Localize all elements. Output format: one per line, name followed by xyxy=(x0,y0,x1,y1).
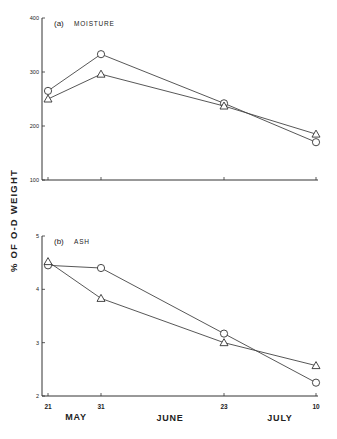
figure: % OF O-D WEIGHT 100200300400(a)MOISTURE … xyxy=(0,0,337,439)
chart-canvas: % OF O-D WEIGHT 100200300400(a)MOISTURE … xyxy=(0,0,337,439)
series-line-circle xyxy=(48,54,316,142)
triangle-marker-icon xyxy=(220,339,228,346)
y-tick-label: 200 xyxy=(30,123,39,129)
circle-marker-icon xyxy=(312,139,319,146)
series-line-circle xyxy=(48,265,316,382)
month-label-june: JUNE xyxy=(156,413,183,423)
circle-marker-icon xyxy=(220,330,227,337)
x-tick-label: 10 xyxy=(312,403,320,410)
x-tick-label: 31 xyxy=(97,403,105,410)
circle-marker-icon xyxy=(97,51,104,58)
x-tick-label: 23 xyxy=(220,403,228,410)
month-label-july: JULY xyxy=(267,413,292,423)
triangle-marker-icon xyxy=(44,258,52,265)
y-tick-label: 300 xyxy=(30,69,39,75)
panel-title: ASH xyxy=(74,238,90,245)
y-tick-label: 2 xyxy=(36,393,39,399)
panel-title: MOISTURE xyxy=(74,20,115,27)
month-label-may: MAY xyxy=(65,412,87,422)
panel-ash: 2345(b)ASH xyxy=(36,233,320,399)
y-tick-label: 4 xyxy=(36,286,39,292)
panel-label: (a) xyxy=(54,19,64,28)
triangle-marker-icon xyxy=(97,70,105,77)
panel-label: (b) xyxy=(54,237,64,246)
y-tick-label: 3 xyxy=(36,340,39,346)
triangle-marker-icon xyxy=(44,95,52,102)
triangle-marker-icon xyxy=(97,294,105,301)
y-tick-label: 5 xyxy=(36,233,39,239)
y-tick-label: 400 xyxy=(30,15,39,21)
x-tick-label: 21 xyxy=(44,403,52,410)
circle-marker-icon xyxy=(312,379,319,386)
circle-marker-icon xyxy=(97,264,104,271)
y-tick-label: 100 xyxy=(30,177,39,183)
series-line-triangle xyxy=(48,262,316,366)
y-axis-label: % OF O-D WEIGHT xyxy=(8,169,19,272)
panel-moisture: 100200300400(a)MOISTURE xyxy=(30,15,320,183)
circle-marker-icon xyxy=(44,87,51,94)
x-axis-labels: 21 31 23 10 MAY JUNE JULY xyxy=(44,403,320,423)
